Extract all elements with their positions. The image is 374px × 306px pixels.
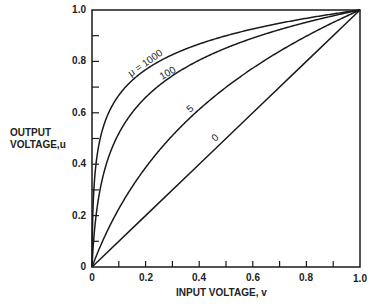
y-axis-title-line2: VOLTAGE,u <box>10 139 66 150</box>
y-tick-label: 0.8 <box>72 55 86 66</box>
y-axis-title-line1: OUTPUT <box>10 127 51 138</box>
x-tick-label: 0.4 <box>192 272 206 283</box>
curve-label-mu-100: 100 <box>158 64 178 82</box>
x-axis-ticks <box>119 261 333 267</box>
x-tick-label: 0.8 <box>299 272 313 283</box>
mu-law-chart: 0 0.2 0.4 0.6 0.8 1.0 0 0.2 0.4 0.6 0.8 … <box>0 0 374 306</box>
x-axis-title: INPUT VOLTAGE, v <box>176 287 267 298</box>
x-tick-label: 0.2 <box>139 272 153 283</box>
y-tick-label: 0.4 <box>72 158 86 169</box>
curve-label-mu-0: 0 <box>209 131 221 143</box>
y-tick-label: 0.2 <box>72 210 86 221</box>
y-tick-label: 0.6 <box>72 107 86 118</box>
curves <box>92 10 360 267</box>
x-tick-label: 0.6 <box>246 272 260 283</box>
x-tick-label: 1.0 <box>353 273 367 284</box>
curve-label-mu-5: 5 <box>184 102 196 114</box>
y-tick-label: 1.0 <box>72 4 86 15</box>
y-tick-label: 0 <box>80 261 86 272</box>
x-tick-label: 0 <box>89 272 95 283</box>
